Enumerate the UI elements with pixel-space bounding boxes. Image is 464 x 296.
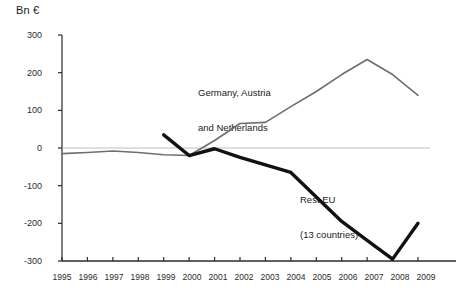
axis-group: [58, 35, 456, 261]
series-group: [62, 59, 418, 259]
chart-plot-area: [0, 0, 464, 296]
series-line-rest-eu: [164, 135, 418, 259]
series-line-germany-austria-netherlands: [62, 59, 418, 155]
chart-container: Bn € 300 200 100 0 -100 -200 -300 1995 1…: [0, 0, 464, 296]
